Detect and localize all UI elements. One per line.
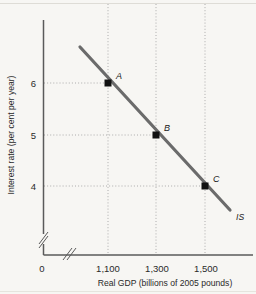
x-axis-title: Real GDP (billions of 2005 pounds) — [98, 278, 233, 288]
x-tick-label-1100: 1,100 — [96, 263, 120, 274]
x-axis-break-icon — [63, 248, 76, 260]
is-curve-label: IS — [236, 212, 244, 222]
y-tick-label-4: 4 — [31, 181, 36, 192]
data-point-b — [153, 132, 160, 139]
data-point-c — [202, 183, 209, 190]
y-axis-title: Interest rate (per cent per year) — [6, 75, 16, 194]
data-point-label-a: A — [115, 71, 122, 81]
x-tick-label-1500: 1,500 — [194, 263, 218, 274]
horizontal-gridlines — [44, 83, 205, 186]
is-curve-chart: A B C IS 6 5 4 0 1,100 1,300 1,500 Inter… — [0, 0, 256, 294]
data-point-a — [105, 80, 112, 87]
origin-label: 0 — [39, 263, 44, 274]
data-point-label-b: B — [164, 123, 170, 133]
y-tick-label-6: 6 — [31, 78, 36, 89]
data-point-label-c: C — [213, 174, 220, 184]
y-tick-label-5: 5 — [31, 130, 36, 141]
x-tick-label-1300: 1,300 — [145, 263, 169, 274]
